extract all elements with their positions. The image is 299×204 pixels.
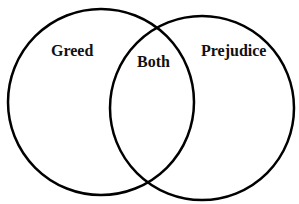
label-greed: Greed [51,42,93,60]
label-both: Both [137,53,170,71]
venn-diagram [0,0,299,204]
label-prejudice: Prejudice [201,42,266,60]
left-circle-greed [8,9,194,195]
